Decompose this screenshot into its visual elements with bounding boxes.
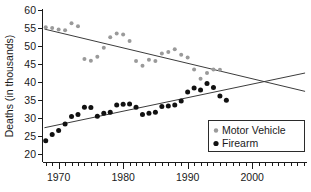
data-point-firearm	[172, 103, 177, 108]
data-point-motor-vehicle	[128, 39, 132, 43]
data-point-motor-vehicle	[115, 31, 119, 35]
data-point-firearm	[88, 105, 93, 110]
data-point-firearm	[69, 114, 74, 119]
data-point-motor-vehicle	[76, 24, 80, 28]
legend-swatch-firearm	[213, 141, 218, 146]
data-point-motor-vehicle	[140, 64, 144, 68]
y-tick-label-group: 202530354045505560	[24, 4, 36, 160]
y-tick-label-45: 45	[24, 58, 36, 70]
data-point-motor-vehicle	[160, 52, 164, 56]
trend-line-group	[44, 29, 305, 128]
data-point-motor-vehicle	[95, 55, 99, 59]
y-tick-label-55: 55	[24, 22, 36, 34]
data-point-firearm	[140, 112, 145, 117]
data-point-firearm	[56, 128, 61, 133]
data-point-firearm	[185, 90, 190, 95]
data-point-motor-vehicle	[179, 53, 183, 57]
y-tick-label-25: 25	[24, 130, 36, 142]
scatter-plot: Deaths (in thousands) 202530354045505560…	[0, 0, 311, 192]
data-point-firearm	[127, 101, 132, 106]
data-point-firearm	[179, 99, 184, 104]
data-point-firearm	[224, 98, 229, 103]
data-point-motor-vehicle	[70, 21, 74, 25]
y-tick-label-30: 30	[24, 112, 36, 124]
data-point-firearm	[121, 102, 126, 107]
x-tick-label-1970: 1970	[47, 171, 71, 183]
chart-container: Deaths (in thousands) 202530354045505560…	[0, 0, 311, 192]
legend: Motor Vehicle Firearm	[209, 121, 305, 152]
data-point-motor-vehicle	[63, 28, 67, 32]
data-point-firearm	[63, 122, 68, 127]
data-point-motor-vehicle	[134, 59, 138, 63]
data-point-firearm	[217, 94, 222, 99]
data-series-motor-vehicle	[44, 21, 222, 80]
data-point-motor-vehicle	[147, 58, 151, 62]
x-tick-group	[47, 163, 305, 169]
data-point-firearm	[134, 105, 139, 110]
x-axis: 1970198019902000	[43, 163, 308, 184]
y-axis-title-text: Deaths (in thousands)	[3, 35, 15, 138]
y-tick-label-50: 50	[24, 40, 36, 52]
x-tick-label-2000: 2000	[240, 171, 264, 183]
y-tick-label-60: 60	[24, 4, 36, 16]
data-point-firearm	[108, 110, 113, 115]
data-point-firearm	[101, 111, 106, 116]
data-point-firearm	[82, 105, 87, 110]
y-axis-title: Deaths (in thousands)	[3, 35, 15, 138]
data-point-firearm	[153, 110, 158, 115]
data-point-motor-vehicle	[89, 59, 93, 63]
data-point-motor-vehicle	[166, 50, 170, 54]
y-tick-label-40: 40	[24, 76, 36, 88]
trend-line-firearm	[44, 73, 305, 128]
data-point-motor-vehicle	[173, 47, 177, 51]
data-point-firearm	[211, 85, 216, 90]
data-point-motor-vehicle	[186, 56, 190, 60]
y-tick-label-35: 35	[24, 94, 36, 106]
y-tick-group	[38, 10, 43, 154]
data-point-firearm	[192, 86, 197, 91]
data-point-firearm	[75, 112, 80, 117]
x-tick-label-group: 1970198019902000	[47, 171, 264, 183]
x-tick-label-1990: 1990	[176, 171, 200, 183]
data-point-motor-vehicle	[205, 71, 209, 75]
data-point-motor-vehicle	[192, 67, 196, 71]
data-point-motor-vehicle	[121, 32, 125, 36]
data-point-motor-vehicle	[199, 77, 203, 81]
data-point-motor-vehicle	[44, 25, 48, 29]
data-point-motor-vehicle	[211, 67, 215, 71]
data-point-firearm	[159, 104, 164, 109]
data-point-firearm	[43, 138, 48, 143]
data-point-firearm	[146, 111, 151, 116]
y-tick-label-20: 20	[24, 148, 36, 160]
data-point-motor-vehicle	[108, 35, 112, 39]
legend-swatch-motor-vehicle	[214, 128, 218, 132]
data-point-firearm	[198, 87, 203, 92]
legend-label-firearm: Firearm	[222, 137, 258, 149]
data-series-firearm	[43, 81, 229, 143]
data-point-motor-vehicle	[153, 59, 157, 63]
data-point-motor-vehicle	[218, 68, 222, 72]
data-point-motor-vehicle	[50, 26, 54, 30]
x-tick-label-1980: 1980	[111, 171, 135, 183]
data-point-firearm	[95, 114, 100, 119]
data-point-firearm	[166, 104, 171, 109]
y-axis: 202530354045505560	[24, 4, 42, 162]
data-point-motor-vehicle	[82, 57, 86, 61]
legend-label-motor-vehicle: Motor Vehicle	[222, 124, 286, 136]
data-point-firearm	[50, 132, 55, 137]
data-point-motor-vehicle	[102, 46, 106, 50]
data-point-firearm	[205, 81, 210, 86]
data-point-firearm	[114, 103, 119, 108]
data-point-motor-vehicle	[57, 27, 61, 31]
